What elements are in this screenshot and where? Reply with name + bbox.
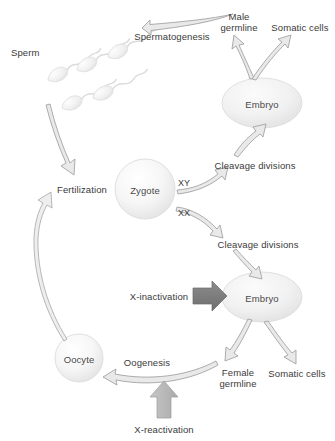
karyotype-xy-label: XY bbox=[178, 178, 190, 189]
arrow-x-inactivation bbox=[193, 281, 227, 311]
embryo-bottom-label: Embryo bbox=[245, 293, 278, 304]
embryo-top-label: Embryo bbox=[245, 99, 278, 110]
arrow-embryo-to-male-germline bbox=[232, 35, 254, 79]
arrow-embryo-to-somatic-top bbox=[252, 35, 291, 80]
x-inactivation-label: X-inactivation bbox=[130, 291, 188, 302]
arrow-sperm-to-fertilization bbox=[46, 104, 75, 175]
oogenesis-label: Oogenesis bbox=[124, 357, 170, 368]
female-germline-label-line1: Female bbox=[222, 367, 254, 378]
sperm-cell bbox=[74, 36, 134, 76]
x-reactivation-label: X-reactivation bbox=[134, 424, 193, 435]
arrow-oocyte-to-fertilization bbox=[34, 192, 67, 341]
female-germline-label-line2: germline bbox=[219, 378, 256, 389]
arrow-embryo-to-female-germline bbox=[225, 319, 252, 361]
cleavage-divisions-bottom-label: Cleavage divisions bbox=[217, 239, 298, 250]
arrow-x-reactivation bbox=[150, 381, 178, 418]
arrow-embryo-to-somatic-bottom bbox=[264, 321, 296, 364]
arrow-cleavage-to-embryo-top bbox=[234, 124, 266, 157]
sperm-cell bbox=[90, 66, 151, 103]
spermatogenesis-label: Spermatogenesis bbox=[134, 31, 209, 42]
zygote-label: Zygote bbox=[130, 185, 160, 196]
fertilization-label: Fertilization bbox=[57, 184, 107, 195]
cleavage-divisions-top-label: Cleavage divisions bbox=[214, 160, 295, 171]
oocyte-label: Oocyte bbox=[64, 354, 95, 365]
somatic-cells-bottom-label: Somatic cells bbox=[268, 368, 325, 379]
germline-cycle-diagram: Sperm Spermatogenesis Male germline Soma… bbox=[0, 0, 335, 441]
sperm-label: Sperm bbox=[11, 47, 39, 58]
karyotype-xx-label: XX bbox=[178, 208, 190, 219]
male-germline-label-line1: Male bbox=[229, 11, 250, 22]
male-germline-label-line2: germline bbox=[220, 22, 257, 33]
somatic-cells-top-label: Somatic cells bbox=[271, 22, 328, 33]
